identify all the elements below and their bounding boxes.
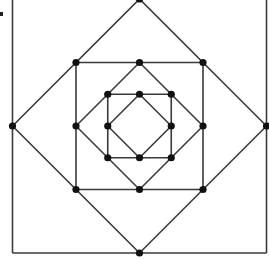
square-3-vertex-dot	[104, 91, 111, 98]
diamond-3-edge	[108, 94, 140, 126]
square-3-vertex-dot	[104, 154, 111, 161]
diamond-2-vertex-dot	[199, 122, 206, 129]
diamond-3-vertex-dot	[136, 91, 143, 98]
diamond-2-vertex-dot	[136, 59, 143, 66]
diamond-3-edge	[140, 126, 172, 158]
diamond-3-edge	[140, 94, 172, 126]
nested-squares-diagram	[0, 0, 269, 259]
diamond-3-edge	[108, 126, 140, 158]
square-2-vertex-dot	[199, 186, 206, 193]
diamond-2-vertex-dot	[136, 186, 143, 193]
diamond-1-vertex-dot	[136, 249, 143, 256]
square-3-vertex-dot	[168, 154, 175, 161]
diamond-3-vertex-dot	[104, 122, 111, 129]
diamond-1-vertex-dot	[9, 122, 16, 129]
diamond-3-vertex-dot	[136, 154, 143, 161]
diamond-2-vertex-dot	[72, 122, 79, 129]
square-2-vertex-dot	[72, 59, 79, 66]
square-2-vertex-dot	[72, 186, 79, 193]
square-2-vertex-dot	[199, 59, 206, 66]
diamond-3-vertex-dot	[168, 122, 175, 129]
square-3-vertex-dot	[168, 91, 175, 98]
